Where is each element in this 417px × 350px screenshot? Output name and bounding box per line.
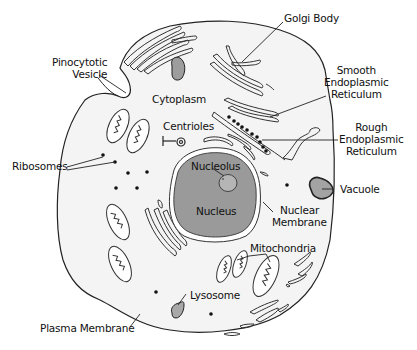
label-nucleus: Nucleus — [196, 205, 236, 217]
label-rough-line2: Endoplasmic — [339, 133, 404, 145]
label-rough-line3: Reticulum — [339, 145, 404, 157]
label-rough-line1: Rough — [339, 121, 404, 133]
label-smooth-line3: Reticulum — [324, 88, 389, 100]
label-nuclear-membrane: Nuclear Membrane — [272, 204, 327, 228]
label-plasma-membrane: Plasma Membrane — [40, 322, 134, 334]
golgi-vesicle — [172, 57, 185, 80]
label-smooth-line2: Endoplasmic — [324, 76, 389, 88]
label-nuclear-line2: Membrane — [272, 216, 327, 228]
label-cytoplasm: Cytoplasm — [152, 93, 206, 105]
label-nucleolus: Nucleolus — [191, 160, 240, 172]
label-pinocytotic-line2: Vesicle — [52, 68, 107, 80]
label-pinocytotic-line1: Pinocytotic — [52, 56, 107, 68]
label-smooth-line1: Smooth — [324, 64, 389, 76]
label-vacuole: Vacuole — [340, 183, 380, 195]
label-centrioles: Centrioles — [163, 120, 214, 132]
label-mitochondria: Mitochondria — [250, 242, 316, 254]
label-pinocytotic-vesicle: Pinocytotic Vesicle — [52, 56, 107, 80]
label-ribosomes: Ribosomes — [12, 160, 68, 172]
nucleolus — [219, 175, 237, 192]
label-nuclear-line1: Nuclear — [272, 204, 327, 216]
label-golgi-body: Golgi Body — [284, 12, 339, 24]
label-smooth-er: Smooth Endoplasmic Reticulum — [324, 64, 389, 100]
label-lysosome: Lysosome — [190, 289, 240, 301]
label-rough-er: Rough Endoplasmic Reticulum — [339, 121, 404, 157]
